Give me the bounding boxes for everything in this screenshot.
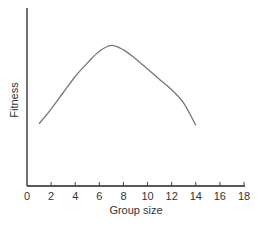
fitness-chart: 024681012141618 Group size Fitness bbox=[0, 0, 261, 227]
x-tick-label: 18 bbox=[238, 190, 250, 202]
x-tick-label: 4 bbox=[72, 190, 78, 202]
x-tick-label: 16 bbox=[214, 190, 226, 202]
x-tick-label: 8 bbox=[120, 190, 126, 202]
x-tick-label: 14 bbox=[190, 190, 202, 202]
x-tick-label: 12 bbox=[166, 190, 178, 202]
x-tick-label: 0 bbox=[24, 190, 30, 202]
x-tick-label: 2 bbox=[48, 190, 54, 202]
x-axis-label: Group size bbox=[109, 204, 162, 216]
x-tick-label: 10 bbox=[141, 190, 153, 202]
x-tick-label: 6 bbox=[96, 190, 102, 202]
x-axis-tick-labels: 024681012141618 bbox=[24, 190, 250, 202]
fitness-curve bbox=[39, 45, 196, 125]
y-axis-label: Fitness bbox=[8, 82, 20, 118]
